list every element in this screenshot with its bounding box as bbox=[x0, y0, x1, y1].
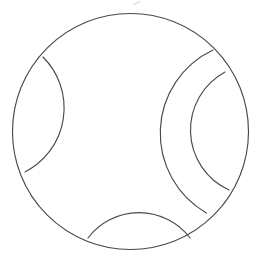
right-outer-crescent-arc bbox=[160, 50, 213, 213]
figure-canvas: Circle with internal arc segments Black-… bbox=[0, 0, 263, 262]
bottom-lens-arc bbox=[88, 213, 190, 238]
top-speck-artifact bbox=[134, 2, 140, 5]
outer-circle bbox=[13, 14, 249, 250]
right-inner-crescent-arc bbox=[190, 72, 229, 190]
left-lens-arc bbox=[25, 57, 64, 172]
line-drawing-svg: Circle with internal arc segments Black-… bbox=[0, 0, 263, 262]
